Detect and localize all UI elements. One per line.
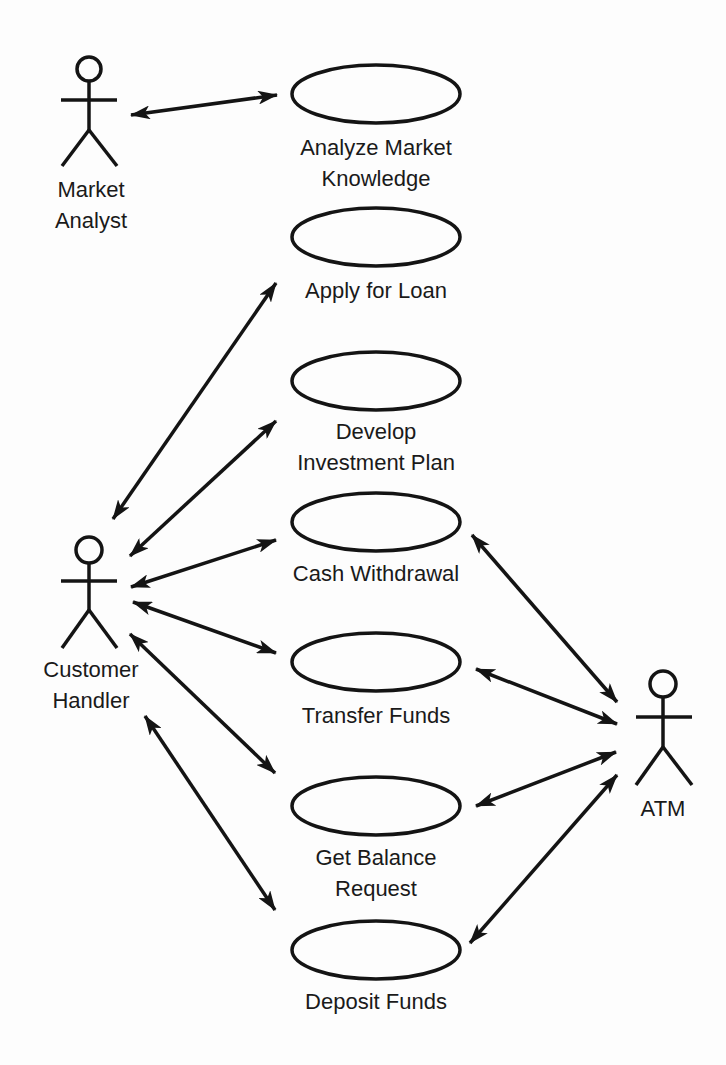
use-case-label-line: Knowledge	[300, 163, 452, 194]
actor-label-customer-handler: Customer Handler	[43, 654, 138, 716]
use-case-label-line: Transfer Funds	[302, 700, 450, 731]
actor-market-analyst-icon	[61, 57, 117, 166]
use-case-diagram: Market Analyst Customer Handler ATM Anal…	[0, 0, 726, 1065]
use-case-label-cash-withdrawal: Cash Withdrawal	[293, 558, 459, 589]
actor-atm-icon	[636, 671, 692, 785]
use-case-label-line: Investment Plan	[297, 447, 455, 478]
use-case-label-line: Cash Withdrawal	[293, 558, 459, 589]
association-handler-transfer-arrow-icon	[133, 602, 276, 653]
association-handler-deposit-arrow-icon	[145, 716, 275, 910]
actor-label-line: ATM	[641, 793, 686, 824]
actor-customer-handler-icon	[61, 537, 117, 648]
use-case-cash-withdrawal	[292, 493, 460, 551]
use-case-label-develop-investment-plan: Develop Investment Plan	[297, 416, 455, 478]
actor-label-line: Handler	[43, 685, 138, 716]
association-handler-cash-arrow-icon	[131, 540, 276, 587]
use-case-apply-for-loan	[292, 208, 460, 266]
actor-label-atm: ATM	[641, 793, 686, 824]
use-case-develop-investment-plan	[292, 352, 460, 410]
actor-label-line: Market	[55, 174, 127, 205]
use-case-analyze-market-knowledge	[292, 65, 460, 123]
association-handler-balance-arrow-icon	[130, 634, 275, 773]
use-case-get-balance-request	[292, 777, 460, 835]
association-handler-invest-arrow-icon	[130, 421, 276, 556]
use-case-label-apply-for-loan: Apply for Loan	[305, 275, 447, 306]
use-case-label-get-balance-request: Get Balance Request	[315, 842, 436, 904]
use-case-label-line: Apply for Loan	[305, 275, 447, 306]
association-handler-loan-arrow-icon	[113, 283, 276, 519]
use-case-deposit-funds	[292, 921, 460, 979]
use-case-transfer-funds	[292, 633, 460, 691]
use-case-label-line: Deposit Funds	[305, 986, 447, 1017]
use-case-label-line: Request	[315, 873, 436, 904]
actor-label-line: Customer	[43, 654, 138, 685]
actor-label-market-analyst: Market Analyst	[55, 174, 127, 236]
use-case-label-line: Develop	[297, 416, 455, 447]
use-case-label-line: Get Balance	[315, 842, 436, 873]
actor-label-line: Analyst	[55, 205, 127, 236]
use-case-label-deposit-funds: Deposit Funds	[305, 986, 447, 1017]
use-case-label-line: Analyze Market	[300, 132, 452, 163]
association-analyst-analyze-arrow-icon	[131, 95, 277, 115]
use-case-label-transfer-funds: Transfer Funds	[302, 700, 450, 731]
use-case-label-analyze-market-knowledge: Analyze Market Knowledge	[300, 132, 452, 194]
